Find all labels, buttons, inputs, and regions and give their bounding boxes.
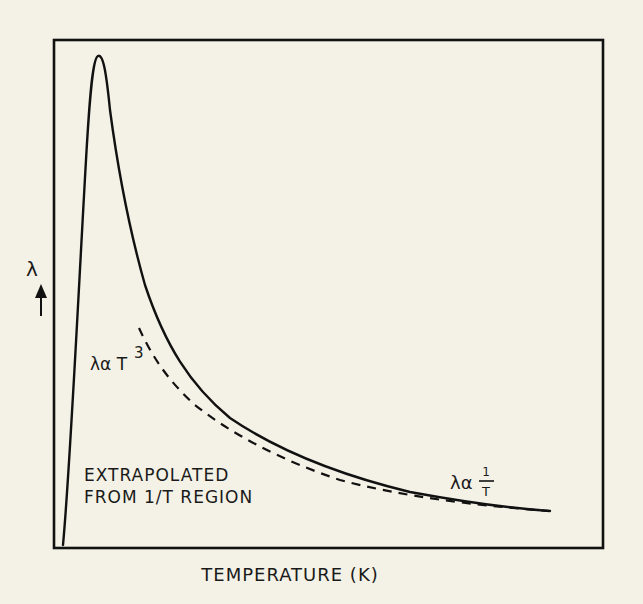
inverse-t-law-label: λα: [450, 472, 473, 493]
x-axis-label: TEMPERATURE (K): [200, 564, 378, 585]
extrapolated-note-line2: FROM 1/T REGION: [84, 487, 253, 507]
y-axis-label: λ: [26, 257, 38, 281]
inverse-t-denominator: T: [481, 484, 490, 499]
extrapolated-note-line1: EXTRAPOLATED: [84, 465, 229, 485]
t-cubed-law-label: λα T: [90, 354, 128, 374]
inverse-t-numerator: 1: [482, 465, 490, 479]
thermal-conductivity-figure: λ λα T 3 λα 1 T EXTRAPOLATED FROM 1/T RE…: [0, 0, 643, 604]
up-arrow-icon: [35, 284, 47, 316]
t-cubed-exponent: 3: [134, 344, 144, 362]
